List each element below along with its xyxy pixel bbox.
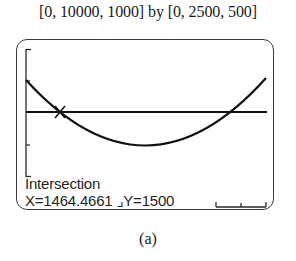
readout-coordinates: X=1464.4661 ⌟Y=1500 [25,193,174,208]
x-axis-ticks [216,202,266,207]
readout-title: Intersection [25,176,100,191]
graph-plot [0,0,296,261]
figure-label: (a) [0,230,296,248]
